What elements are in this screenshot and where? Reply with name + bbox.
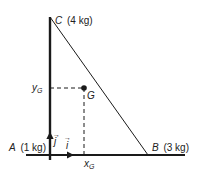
label-c: C (4 kg): [55, 15, 93, 26]
label-b: B (3 kg): [152, 142, 189, 153]
label-i-arrow: →: [64, 134, 71, 141]
label-yg: yG: [31, 82, 43, 94]
label-i: i: [66, 140, 69, 151]
g-point: [81, 85, 87, 91]
center-of-mass-diagram: C (4 kg) yG G A (1 kg) j → i → B (3 kg) …: [0, 0, 197, 182]
label-j-arrow: →: [53, 131, 60, 138]
label-g: G: [87, 90, 95, 101]
label-a: A (1 kg): [8, 142, 46, 153]
label-xg: xG: [83, 158, 95, 170]
